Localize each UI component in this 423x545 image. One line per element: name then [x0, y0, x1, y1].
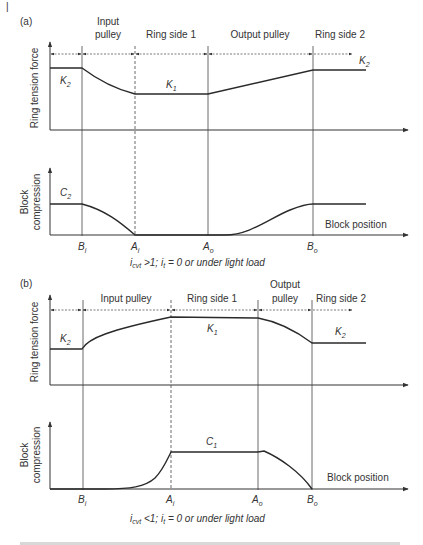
y-axis-label-compression: Block — [19, 189, 30, 214]
label-ai: Ai — [130, 241, 140, 254]
panel-label: (a) — [20, 16, 32, 27]
segment-label-output-pulley: Output — [270, 279, 300, 290]
label-ao: Ao — [251, 494, 263, 507]
label-k2-left: K2 — [60, 333, 71, 346]
segment-label-ring-side-1: Ring side 1 — [146, 29, 196, 40]
segment-label-ring-side-1: Ring side 1 — [187, 293, 237, 304]
segment-label-output-pulley: Output pulley — [231, 29, 290, 40]
segment-label-input-pulley: Input — [97, 16, 119, 27]
compression-curve — [50, 451, 312, 489]
label-bo: Bo — [307, 241, 318, 254]
x-axis-label: Block position — [325, 219, 387, 230]
panel-b: (b) Input pulley Ring side 1 Output pull… — [19, 278, 408, 525]
label-k1: K1 — [166, 79, 177, 92]
y-axis-label-compression-2: compression — [31, 174, 42, 231]
page-marker: | — [6, 1, 9, 12]
label-c1: C1 — [206, 436, 217, 449]
panel-a: (a) Input pulley Ring side 1 Output pull… — [19, 16, 408, 269]
label-ai: Ai — [165, 494, 175, 507]
label-k1: K1 — [207, 323, 218, 336]
y-axis-label-compression-2: compression — [31, 427, 42, 484]
y-axis-label-tension: Ring tension force — [29, 47, 40, 128]
panel-label: (b) — [20, 278, 32, 289]
label-k2-right: K2 — [335, 326, 346, 339]
label-ao: Ao — [202, 241, 214, 254]
segment-label-input-pulley: Input pulley — [100, 293, 151, 304]
y-axis-label-compression: Block — [19, 442, 30, 467]
label-k2-left: K2 — [60, 75, 71, 88]
segment-label-input-pulley-2: pulley — [95, 29, 121, 40]
segment-label-ring-side-2: Ring side 2 — [316, 293, 366, 304]
figure: | (a) Input pulley Ring side 1 Output pu… — [0, 0, 423, 545]
condition-caption: icvt <1; it = 0 or under light load — [130, 513, 265, 525]
segment-label-output-pulley-2: pulley — [272, 293, 298, 304]
label-k2-right: K2 — [359, 55, 370, 68]
segment-label-ring-side-2: Ring side 2 — [315, 29, 365, 40]
y-axis-label-tension: Ring tension force — [29, 301, 40, 382]
condition-caption: icvt >1; it = 0 or under light load — [130, 257, 265, 269]
label-c2: C2 — [60, 187, 71, 200]
label-bi: Bi — [78, 494, 87, 507]
label-bi: Bi — [78, 241, 87, 254]
label-bo: Bo — [307, 494, 318, 507]
x-axis-label: Block position — [327, 472, 389, 483]
